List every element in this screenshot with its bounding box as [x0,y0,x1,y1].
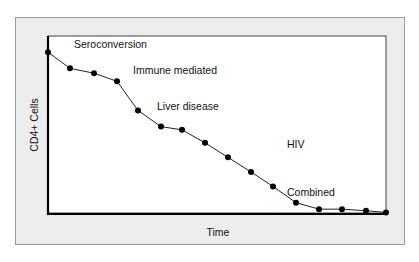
annotation-combined: Combined [287,186,335,198]
data-point [339,206,345,212]
annotation-immune-mediated: Immune mediated [133,64,217,76]
annotation-liver-disease: Liver disease [157,100,219,112]
data-point [135,107,141,113]
x-axis-label: Time [207,226,230,238]
annotation-seroconversion: Seroconversion [74,38,147,50]
data-point [363,208,369,214]
data-point [91,70,97,76]
plot-area [48,36,386,213]
data-point [293,200,299,206]
data-point [67,65,73,71]
data-point [114,78,120,84]
data-point [383,209,389,215]
data-point [158,124,164,130]
data-point [179,127,185,133]
data-point [225,154,231,160]
data-point [248,169,254,175]
line-chart: Seroconversion Immune mediated Liver dis… [0,0,419,262]
y-axis-label: CD4+ Cells [28,98,40,151]
data-point [270,183,276,189]
annotation-hiv: HIV [287,138,305,150]
data-point [316,206,322,212]
data-point [45,49,51,55]
data-point [202,140,208,146]
